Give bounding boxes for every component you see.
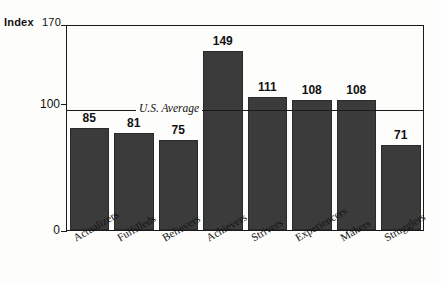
bar-achievers[interactable] [203,51,243,230]
bar-group: 149 [203,26,243,230]
us-average-label: U.S. Average [136,102,202,114]
bar-experiencers[interactable] [292,100,332,230]
bar-value-label: 111 [248,80,288,94]
bar-value-label: 149 [203,34,243,48]
bar-value-label: 85 [70,111,110,125]
bar-group: 75 [159,26,199,230]
x-axis-labels: ActualizersFulfilledsBelieversAchieversS… [66,233,424,285]
y-tick-mark-0 [61,231,67,232]
y-tick-label-top-inline: 170 [42,16,61,28]
chart-page: Index 170 170 100 0 85817514911110810871… [0,0,441,285]
y-axis-caption: Index 170 [4,16,61,28]
bar-group: 108 [292,26,332,230]
bar-group: 71 [381,26,421,230]
plot-area: 85817514911110810871 U.S. Average [66,25,424,231]
bar-group: 111 [248,26,288,230]
bar-strivers[interactable] [248,97,288,230]
y-tick-label-100: 100 [26,97,60,111]
bar-value-label: 71 [381,128,421,142]
bar-group: 108 [337,26,377,230]
bar-value-label: 81 [114,116,154,130]
us-average-line-left [67,110,136,111]
us-average-line-right [202,110,423,111]
bar-value-label: 108 [337,83,377,97]
bar-group: 81 [114,26,154,230]
bar-group: 85 [70,26,110,230]
bar-value-label: 75 [159,123,199,137]
y-axis-title: Index [4,16,34,28]
bar-value-label: 108 [292,83,332,97]
y-tick-label-0: 0 [26,223,60,237]
bars-layer: 85817514911110810871 [67,26,423,230]
